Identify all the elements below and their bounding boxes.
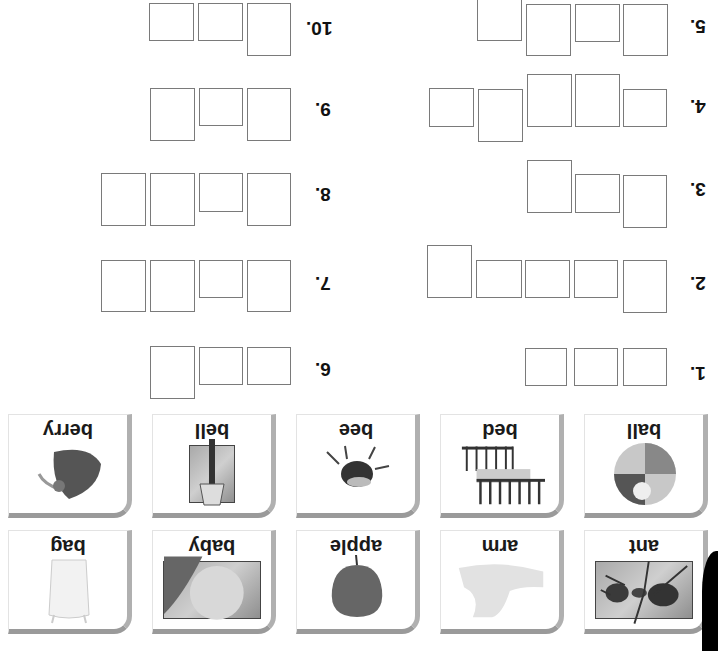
letter-box[interactable] [623,4,668,56]
letter-box[interactable] [623,348,667,386]
card-word-label: bee [297,419,415,442]
question-number: 1. [690,362,706,384]
letter-box[interactable] [575,74,620,127]
letter-box[interactable] [575,4,620,42]
picture-card-berry[interactable]: berry [8,414,132,518]
picture-card-arm[interactable]: arm [440,530,564,634]
letter-box[interactable] [199,260,243,298]
letter-box[interactable] [623,89,667,127]
card-word-label: berry [9,419,127,442]
picture-card-bed[interactable]: bed [440,414,564,518]
letter-box[interactable] [478,89,523,142]
question-number: 2. [690,272,706,294]
letter-box[interactable] [526,4,571,56]
letter-box[interactable] [527,74,572,127]
strawberry-icon [25,445,113,503]
picture-card-bee[interactable]: bee [296,414,420,518]
letter-box[interactable] [198,3,243,41]
question-number: 5. [690,15,706,37]
letter-box[interactable] [525,348,567,386]
letter-box[interactable] [429,88,474,127]
letter-box[interactable] [150,260,195,312]
letter-box[interactable] [247,173,291,226]
letter-box[interactable] [199,173,243,212]
letter-box[interactable] [247,347,291,385]
letter-box[interactable] [623,175,667,228]
card-word-label: ball [585,419,703,442]
letter-box[interactable] [623,260,667,313]
letter-box[interactable] [247,260,291,312]
question-number: 9. [315,98,331,120]
letter-box[interactable] [525,260,570,298]
bag-icon [25,561,113,619]
baby-icon [163,561,261,619]
letter-box[interactable] [150,88,195,141]
ant-icon [595,561,693,619]
letter-box[interactable] [427,245,472,298]
letter-box[interactable] [199,347,243,385]
bed-icon [457,445,545,503]
question-number: 4. [690,95,706,117]
arm-icon [457,561,545,619]
card-word-label: bed [441,419,559,442]
picture-card-bell[interactable]: bell [152,414,276,518]
letter-box[interactable] [574,348,618,386]
letter-box[interactable] [527,160,572,213]
letter-box[interactable] [476,260,522,298]
question-number: 3. [690,178,706,200]
letter-box[interactable] [247,3,291,56]
picture-card-ball[interactable]: ball [584,414,708,518]
question-number: 6. [315,358,331,380]
letter-box[interactable] [101,173,146,226]
bee-icon [313,445,401,503]
card-word-label: arm [441,535,559,558]
scan-edge-shadow [702,551,718,651]
letter-box[interactable] [150,173,195,226]
letter-box[interactable] [101,260,146,312]
letter-box[interactable] [575,174,620,213]
letter-box[interactable] [477,0,522,41]
question-number: 10. [306,17,332,39]
beach-ball-icon [601,445,689,503]
letter-box[interactable] [574,260,618,298]
letter-box[interactable] [149,3,194,41]
question-number: 8. [315,183,331,205]
bell-icon [189,445,235,503]
question-number: 7. [315,272,331,294]
picture-card-ant[interactable]: ant [584,530,708,634]
picture-card-baby[interactable]: baby [152,530,276,634]
letter-box[interactable] [247,88,291,141]
letter-box[interactable] [150,346,195,399]
apple-icon [313,561,401,619]
letter-box[interactable] [199,88,243,126]
picture-card-apple[interactable]: apple [296,530,420,634]
picture-card-bag[interactable]: bag [8,530,132,634]
